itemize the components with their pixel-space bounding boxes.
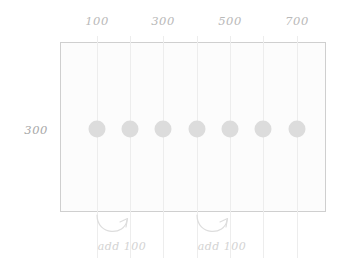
scatter-plot-figure: 100 300 500 700 300 add 100 add 100 <box>0 0 352 266</box>
add-100-arrowhead-1 <box>120 219 128 228</box>
data-point <box>222 121 239 138</box>
add-100-arc-2 <box>197 215 227 231</box>
gridline-1 <box>97 36 98 258</box>
x-tick-label-300: 300 <box>151 14 175 28</box>
annotation-label-1: add 100 <box>98 240 147 253</box>
gridline-5 <box>230 36 231 258</box>
data-point <box>122 121 139 138</box>
data-point <box>155 121 172 138</box>
gridline-3 <box>163 36 164 258</box>
x-tick-label-500: 500 <box>218 14 242 28</box>
add-100-arc-1 <box>97 215 127 231</box>
annotation-label-2: add 100 <box>198 240 247 253</box>
x-tick-label-700: 700 <box>285 14 309 28</box>
gridline-6 <box>263 36 264 258</box>
data-point <box>89 121 106 138</box>
gridline-2 <box>130 36 131 258</box>
data-point <box>289 121 306 138</box>
gridline-7 <box>297 36 298 258</box>
x-tick-label-100: 100 <box>85 14 109 28</box>
data-point <box>189 121 206 138</box>
data-point <box>255 121 272 138</box>
add-100-arrowhead-2 <box>220 219 228 228</box>
y-tick-label-300: 300 <box>24 123 48 137</box>
gridline-4 <box>197 36 198 258</box>
